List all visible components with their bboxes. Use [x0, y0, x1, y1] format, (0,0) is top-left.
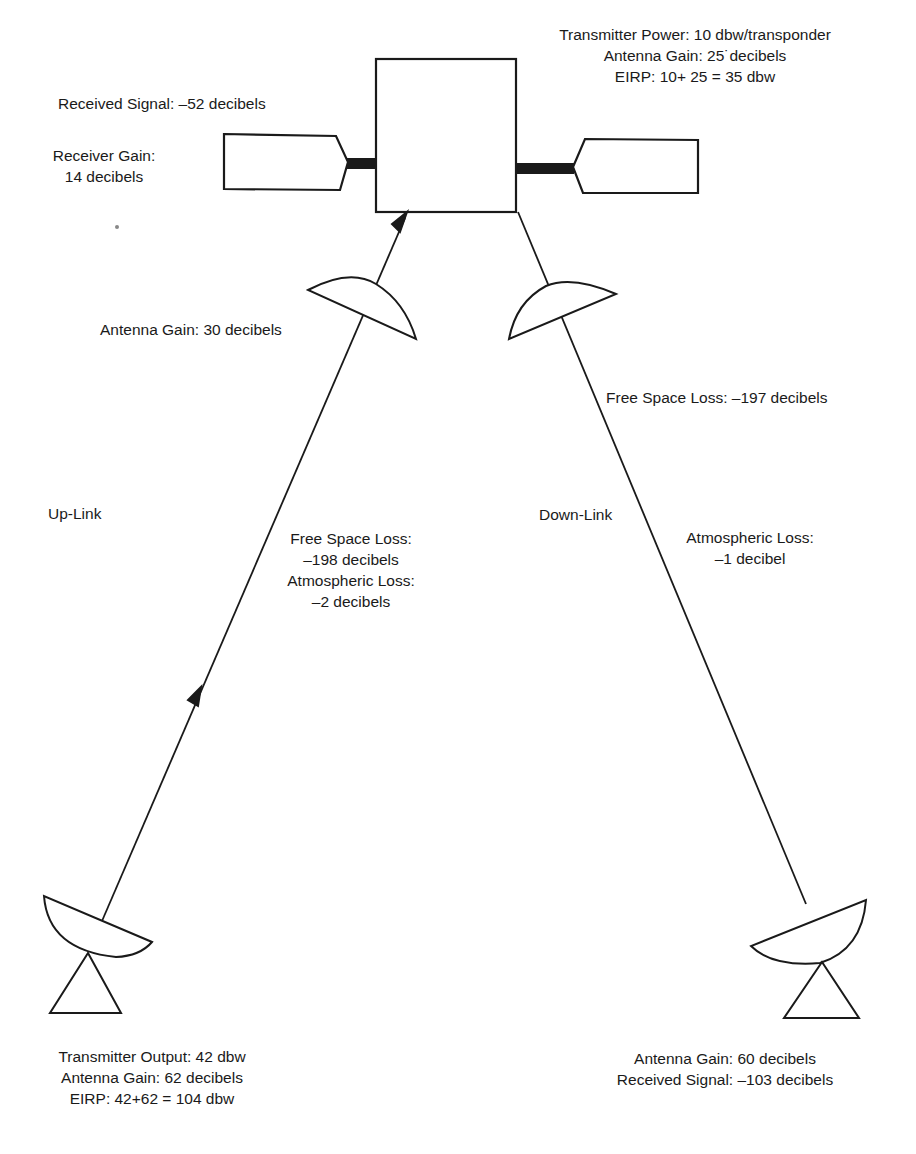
satellite-received-signal-label: Received Signal: –52 decibels: [58, 93, 266, 114]
satellite-antenna-gain-label: Antenna Gain: 30 decibels: [100, 319, 282, 340]
uplink-label: Up-Link: [48, 503, 101, 524]
downlink-label: Down-Link: [539, 504, 612, 525]
ground-transmit-mount-icon: [50, 953, 121, 1013]
ground-receive-dish-icon: [751, 900, 866, 964]
ground-receiver-info: Antenna Gain: 60 decibels Received Signa…: [594, 1048, 856, 1090]
uplink-arrow-mid-icon: [188, 687, 201, 706]
satellite-body: [376, 59, 516, 212]
sat-eirp-text: EIRP: 10+ 25 = 35 dbw: [540, 66, 850, 87]
left-solar-panel: [224, 134, 348, 190]
transmitter-power-text: Transmitter Power: 10 dbw/transponder: [540, 24, 850, 45]
downlink-free-space-loss-label: Free Space Loss: –197 decibels: [606, 387, 827, 408]
uplink-losses-label: Free Space Loss: –198 decibels Atmospher…: [272, 528, 430, 612]
ground-receive-mount-icon: [784, 962, 859, 1018]
ground-transmit-dish-icon: [44, 896, 152, 957]
satellite-transmit-dish-icon: [509, 282, 616, 339]
satellite-transmit-info: Transmitter Power: 10 dbw/transponder An…: [540, 24, 850, 87]
uplink-arrow-top-icon: [392, 212, 407, 232]
right-panel-connector: [516, 163, 574, 174]
satellite-receiver-gain-label: Receiver Gain: 14 decibels: [52, 145, 156, 187]
satellite-receive-dish-icon: [308, 277, 416, 339]
ground-transmitter-info: Transmitter Output: 42 dbw Antenna Gain:…: [40, 1046, 264, 1109]
left-panel-connector: [347, 158, 377, 169]
speck-mark: [115, 225, 119, 229]
downlink-atmospheric-loss-label: Atmospheric Loss: –1 decibel: [670, 527, 830, 569]
sat-antenna-gain-text: Antenna Gain: 25˙decibels: [540, 45, 850, 66]
diagram-canvas: Received Signal: –52 decibels Receiver G…: [0, 0, 916, 1154]
right-solar-panel: [573, 139, 698, 193]
